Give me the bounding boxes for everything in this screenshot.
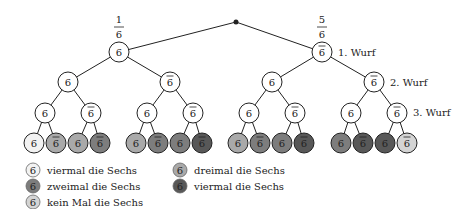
leaf-node: 6 [228, 133, 248, 153]
leaf-node: 6 [192, 133, 212, 153]
not-six-symbol: 6 [292, 108, 298, 119]
tree-node-level-1: 6 [312, 42, 332, 62]
six-symbol: 6 [382, 138, 388, 149]
not-six-symbol: 6 [167, 77, 173, 88]
legend-label: viermal die Sechs [193, 181, 284, 192]
level-label-1: 1. Wurf [338, 47, 377, 58]
leaf-node: 6 [90, 133, 110, 153]
not-six-symbol: 6 [88, 108, 94, 119]
leaf-node: 6 [148, 133, 168, 153]
leaf-node: 6 [397, 133, 417, 153]
six-symbol: 6 [338, 138, 344, 149]
six-symbol: 6 [177, 165, 183, 176]
fraction-denominator: 6 [116, 29, 122, 40]
not-six-symbol: 6 [257, 138, 263, 149]
root-dot [234, 20, 239, 25]
tree-edge [236, 22, 322, 52]
six-symbol: 6 [279, 138, 285, 149]
legend-item: 6zweimal die Sechs [26, 179, 140, 193]
leaf-node: 6 [353, 133, 373, 153]
six-symbol: 6 [246, 108, 252, 119]
legend-item: 6viermal die Sechs [26, 163, 137, 177]
root-probability-right: 5 6 [317, 14, 327, 40]
legend-item: 6dreimal die Sechs [173, 163, 285, 177]
tree-node-level-3: 6 [387, 103, 407, 123]
leaf-node: 6 [126, 133, 146, 153]
six-symbol: 6 [30, 197, 36, 208]
level-label-2: 2. Wurf [390, 77, 429, 88]
legend: 6viermal die Sechs6zweimal die Sechs6kei… [26, 163, 285, 209]
leaf-node: 6 [272, 133, 292, 153]
six-symbol: 6 [116, 47, 122, 58]
not-six-symbol: 6 [190, 108, 196, 119]
legend-label: viermal die Sechs [46, 165, 137, 176]
not-six-symbol: 6 [404, 138, 410, 149]
six-symbol: 6 [133, 138, 139, 149]
six-symbol: 6 [30, 181, 36, 192]
six-symbol: 6 [348, 108, 354, 119]
tree-node-level-1: 6 [109, 42, 129, 62]
tree-edge [119, 22, 236, 52]
tree-edges [34, 22, 407, 143]
tree-node-level-3: 6 [35, 103, 55, 123]
legend-label: kein Mal die Sechs [47, 197, 143, 208]
leaf-node: 6 [375, 133, 395, 153]
six-symbol: 6 [30, 165, 36, 176]
six-symbol: 6 [177, 138, 183, 149]
leaf-node: 6 [294, 133, 314, 153]
six-symbol: 6 [65, 77, 71, 88]
not-six-symbol: 6 [394, 108, 400, 119]
six-symbol: 6 [42, 108, 48, 119]
leaf-node: 6 [250, 133, 270, 153]
six-symbol: 6 [269, 77, 275, 88]
six-symbol: 6 [31, 138, 37, 149]
six-symbol: 6 [235, 138, 241, 149]
not-six-symbol: 6 [199, 138, 205, 149]
tree-node-level-3: 6 [341, 103, 361, 123]
fraction-numerator: 1 [116, 14, 122, 25]
tree-node-level-2: 6 [364, 72, 384, 92]
six-symbol: 6 [144, 108, 150, 119]
tree-node-level-2: 6 [58, 72, 78, 92]
leaf-node: 6 [331, 133, 351, 153]
probability-tree-diagram: 666666666666666666666666666666 1 6 5 6 1… [0, 0, 472, 209]
tree-node-level-3: 6 [183, 103, 203, 123]
tree-node-level-3: 6 [137, 103, 157, 123]
not-six-symbol: 6 [53, 138, 59, 149]
tree-node-level-2: 6 [160, 72, 180, 92]
tree-node-level-3: 6 [81, 103, 101, 123]
fraction-numerator: 5 [319, 14, 325, 25]
leaf-node: 6 [170, 133, 190, 153]
tree-node-level-3: 6 [239, 103, 259, 123]
tree-node-level-3: 6 [285, 103, 305, 123]
tree-nodes: 666666666666666666666666666666 [24, 20, 417, 154]
not-six-symbol: 6 [301, 138, 307, 149]
level-label-3: 3. Wurf [413, 107, 452, 118]
six-symbol: 6 [75, 138, 81, 149]
not-six-symbol: 6 [319, 47, 325, 58]
tree-node-level-2: 6 [262, 72, 282, 92]
six-symbol: 6 [177, 181, 183, 192]
root-probability-left: 1 6 [114, 14, 124, 40]
fraction-denominator: 6 [319, 29, 325, 40]
legend-item: 6viermal die Sechs [173, 179, 284, 193]
legend-label: dreimal die Sechs [194, 165, 285, 176]
leaf-node: 6 [24, 133, 44, 153]
not-six-symbol: 6 [97, 138, 103, 149]
not-six-symbol: 6 [371, 77, 377, 88]
legend-item: 6kein Mal die Sechs [26, 195, 143, 209]
not-six-symbol: 6 [155, 138, 161, 149]
not-six-symbol: 6 [360, 138, 366, 149]
leaf-node: 6 [68, 133, 88, 153]
legend-label: zweimal die Sechs [47, 181, 140, 192]
leaf-node: 6 [46, 133, 66, 153]
